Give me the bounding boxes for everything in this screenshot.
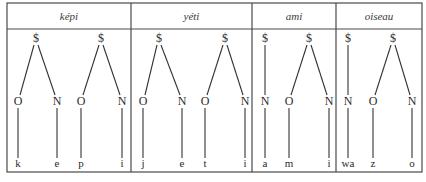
nucleus-node: N — [178, 94, 187, 108]
branch-edge — [83, 45, 99, 95]
nucleus-node: N — [344, 94, 353, 108]
syllable-node: $ — [345, 31, 351, 45]
nucleus-node: N — [241, 94, 250, 108]
syllable-node: $ — [262, 31, 268, 45]
syllable-trees: $OkNe$OpNi$OjNe$OtNi$Na$OmNi$Nwa$OzNo — [14, 31, 417, 169]
onset-node: O — [201, 94, 210, 108]
segment-label: p — [78, 157, 84, 169]
segment-label: a — [263, 157, 268, 169]
branch-edge — [161, 45, 180, 95]
branch-edge — [145, 45, 157, 95]
syllable-node: $ — [98, 31, 104, 45]
syllable-tree: $OtNi — [201, 31, 250, 169]
segment-label: m — [285, 157, 294, 169]
nucleus-node: N — [408, 94, 417, 108]
nucleus-node: N — [325, 94, 334, 108]
branch-edge — [227, 45, 243, 95]
onset-node: O — [14, 94, 23, 108]
word-headers: képiyétiamioiseau — [60, 10, 394, 22]
syllable-tree: $OjNe — [139, 31, 187, 169]
segment-label: o — [409, 157, 415, 169]
branch-edge — [395, 45, 410, 95]
syllable-tree: $Nwa — [342, 31, 355, 169]
onset-node: O — [77, 94, 86, 108]
outer-border — [7, 3, 422, 172]
table-frame — [7, 3, 422, 172]
nucleus-node: N — [261, 94, 270, 108]
onset-node: O — [139, 94, 148, 108]
branch-edge — [207, 45, 223, 95]
branch-edge — [38, 45, 55, 95]
segment-label: z — [371, 157, 376, 169]
segment-label: i — [120, 157, 123, 169]
syllable-tree: $OmNi — [285, 31, 334, 169]
branch-edge — [311, 45, 327, 95]
segment-label: e — [55, 157, 60, 169]
syllable-tree: $OkNe — [14, 31, 62, 169]
segment-label: t — [203, 157, 206, 169]
segment-label: k — [15, 157, 21, 169]
column-header: ami — [286, 10, 303, 22]
branch-edge — [291, 45, 307, 95]
segment-label: wa — [342, 157, 355, 169]
column-header: oiseau — [365, 10, 394, 22]
segment-label: e — [180, 157, 185, 169]
syllable-diagram: képiyétiamioiseau $OkNe$OpNi$OjNe$OtNi$N… — [0, 0, 426, 182]
syllable-node: $ — [306, 31, 312, 45]
syllable-tree: $OzNo — [369, 31, 417, 169]
segment-label: j — [140, 157, 144, 169]
branch-edge — [20, 45, 34, 95]
nucleus-node: N — [53, 94, 62, 108]
syllable-node: $ — [390, 31, 396, 45]
onset-node: O — [285, 94, 294, 108]
syllable-node: $ — [222, 31, 228, 45]
syllable-tree: $Na — [261, 31, 270, 169]
segment-label: i — [243, 157, 246, 169]
branch-edge — [375, 45, 391, 95]
segment-label: i — [327, 157, 330, 169]
column-header: yéti — [183, 10, 200, 22]
syllable-node: $ — [156, 31, 162, 45]
nucleus-node: N — [118, 94, 127, 108]
branch-edge — [103, 45, 120, 95]
syllable-node: $ — [33, 31, 39, 45]
column-header: képi — [60, 10, 78, 22]
onset-node: O — [369, 94, 378, 108]
syllable-tree: $OpNi — [77, 31, 127, 169]
